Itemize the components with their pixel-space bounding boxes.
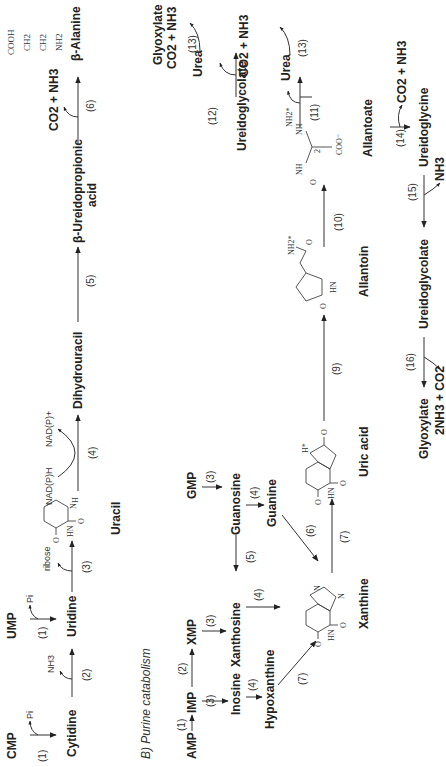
svg-text:NH2*: NH2* <box>285 107 294 127</box>
svg-text:NH2*: NH2* <box>287 235 296 255</box>
inosine-label: Inosine <box>229 673 243 715</box>
svg-text:O: O <box>305 239 314 245</box>
uric-acid-label: Uric acid <box>357 426 371 477</box>
svg-text:CH2: CH2 <box>38 34 48 51</box>
nh3-label-pyr: NH3 <box>46 655 56 673</box>
allantoate-label: Allantoate <box>361 99 375 157</box>
svg-text:HN: HN <box>329 281 338 293</box>
step-3-pyr: (3) <box>81 561 92 573</box>
svg-text:O: O <box>339 480 348 486</box>
step-5-pyr: (5) <box>85 275 96 287</box>
step-15-pur: (15) <box>407 183 418 201</box>
step-11-pur: (11) <box>309 104 320 121</box>
svg-text:N: N <box>313 585 322 591</box>
cmp-label: CMP <box>5 732 19 759</box>
urea-label-2: Urea <box>191 50 205 77</box>
svg-text:O: O <box>309 179 318 185</box>
gmp-label: GMP <box>185 472 199 499</box>
step-7a-pur: (7) <box>297 673 308 685</box>
ribose-label: ribose <box>42 546 52 571</box>
svg-text:HN: HN <box>66 525 75 537</box>
step-1a: (1) <box>37 750 48 762</box>
arrow-pi-release-2 <box>30 605 38 619</box>
svg-text:N: N <box>337 593 346 599</box>
step-13a-pur: (13) <box>187 35 198 53</box>
arrow-urea-release-1 <box>288 91 300 103</box>
step-12-pur: (12) <box>207 107 218 125</box>
cytidine-label: Cytidine <box>65 709 79 757</box>
allantoin-structure: O HN NH2* O <box>287 235 338 309</box>
step-3c-pur: (3) <box>205 471 216 483</box>
svg-text:NH: NH <box>295 163 304 175</box>
ureidoglycolate-b-label: Ureidoglycolate <box>417 239 431 329</box>
step-10-pur: (10) <box>333 213 344 231</box>
svg-text:O: O <box>52 537 61 543</box>
arrow-pi-release-1 <box>30 721 38 735</box>
step-4b-pur: (4) <box>253 589 264 601</box>
svg-text:O: O <box>77 518 86 524</box>
pi-label-1: Pi <box>25 711 35 719</box>
imp-label: IMP <box>185 692 199 713</box>
dihydrouracil-label: Dihydrouracil <box>71 332 85 409</box>
svg-text:COOH: COOH <box>6 29 16 55</box>
step-6-pur: (6) <box>305 525 316 537</box>
beta-alanine-structure: COOH CH2 CH2 NH2 <box>6 29 64 55</box>
step-4-pyr: (4) <box>87 447 98 459</box>
svg-text:2: 2 <box>313 149 322 153</box>
step-6-pyr: (6) <box>85 100 96 112</box>
co2-nh3-label-pyr: CO2 + NH3 <box>47 68 61 131</box>
step-14-pur: (14) <box>395 129 406 147</box>
step-16-pur: (16) <box>405 353 416 371</box>
arrow-nadph-cofactor <box>58 429 75 477</box>
svg-text:NH2: NH2 <box>54 34 64 52</box>
step-2-pur: (2) <box>177 663 188 675</box>
arrow-urea-release-2 <box>220 63 236 75</box>
nadp-label: NAD(P)+ <box>44 411 54 447</box>
pi-label-2: Pi <box>25 595 35 603</box>
step-4c-pur: (4) <box>249 487 260 499</box>
svg-text:HN: HN <box>327 487 336 499</box>
purine-section-title: B) Purine catabolism <box>139 648 153 759</box>
svg-text:CH2: CH2 <box>22 34 32 51</box>
arrow-guanine-xanthine <box>282 515 318 561</box>
nh3-label-pur: NH3 <box>433 157 446 181</box>
svg-text:COO⁻: COO⁻ <box>335 134 344 155</box>
co2-nh3-label-1: CO2 + NH3 <box>237 14 251 77</box>
arrow-co2-nh3-release-1 <box>280 27 290 55</box>
catabolism-diagram: CMP (1) Pi Cytidine NH3 (2) UMP (1) Pi U… <box>0 0 446 767</box>
svg-text:O: O <box>319 303 328 309</box>
arrow-co2-nh3-release-pyr <box>64 107 78 117</box>
svg-text:H*: H* <box>301 443 310 453</box>
co2-nh3-label-2: CO2 + NH3 <box>165 6 179 69</box>
co2-nh3-label-3: CO2 + NH3 <box>395 40 409 103</box>
hypoxanthine-label: Hypoxanthine <box>263 649 277 729</box>
svg-text:H: H <box>71 497 80 503</box>
step-2: (2) <box>81 669 92 681</box>
step-13b-pur: (13) <box>297 39 308 57</box>
glyoxylate-a-label: Glyoxylate <box>151 4 165 65</box>
step-4a-pur: (4) <box>247 679 258 691</box>
uracil-label: Uracil <box>109 502 123 535</box>
step-1-pur: (1) <box>176 719 187 731</box>
step-9-pur: (9) <box>331 363 342 375</box>
svg-text:O: O <box>314 641 323 647</box>
xanthine-label: Xanthine <box>357 578 371 629</box>
2nh3-co2-label: 2NH3 + CO2 <box>433 366 446 435</box>
guanine-label: Guanine <box>265 479 279 527</box>
xanthosine-label: Xanthosine <box>229 602 243 667</box>
ureidopropionic-label: β-Ureidopropionic <box>71 139 85 243</box>
svg-text:O: O <box>314 499 323 505</box>
xanthine-structure: O O HN N N <box>306 585 348 647</box>
xmp-label: XMP <box>185 619 199 645</box>
step-1b: (1) <box>37 627 48 639</box>
svg-text:O: O <box>339 622 348 628</box>
arrow-nh3-release <box>60 671 72 679</box>
allantoin-label: Allantoin <box>357 246 371 297</box>
amp-label: AMP <box>185 732 199 759</box>
ureidopropionic-label-2: acid <box>85 183 99 207</box>
step-3b-pur: (3) <box>205 615 216 627</box>
urea-label-1: Urea <box>279 54 293 81</box>
ureidoglycine-label: Ureidoglycine <box>417 87 431 167</box>
arrow-ribose-release <box>58 563 72 571</box>
step-5-pur: (5) <box>245 551 256 563</box>
